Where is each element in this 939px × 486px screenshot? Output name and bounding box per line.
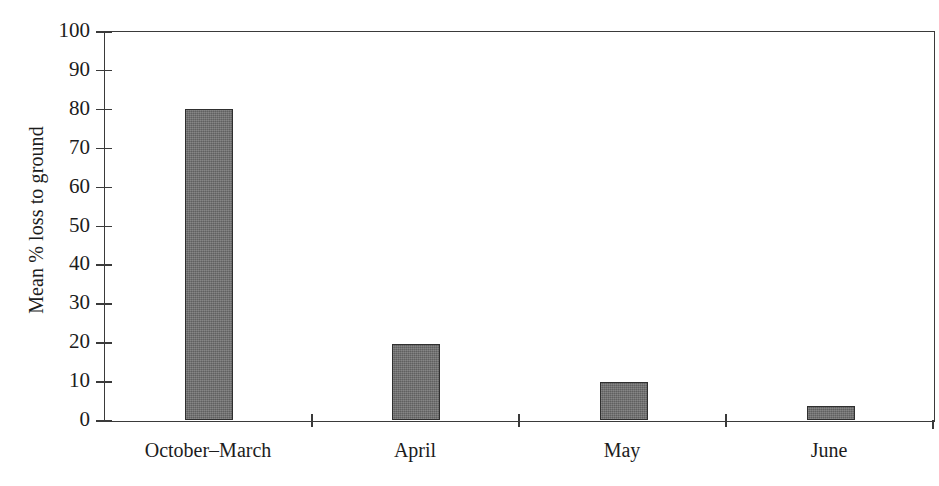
bar-may [600, 382, 648, 420]
y-axis-title: Mean % loss to ground [22, 10, 50, 430]
x-axis-label-0: October–March [104, 438, 312, 462]
bar-series [106, 31, 935, 420]
x-axis-label-1: April [311, 438, 519, 462]
x-axis-label-2: May [518, 438, 726, 462]
bar-october-march [185, 109, 233, 420]
right-axis-overshoot [932, 420, 934, 429]
bar-chart-figure: Mean % loss to ground 100 90 80 70 60 50… [0, 0, 939, 486]
x-axis-label-3: June [725, 438, 933, 462]
bar-april [392, 344, 440, 420]
bar-june [807, 406, 855, 420]
